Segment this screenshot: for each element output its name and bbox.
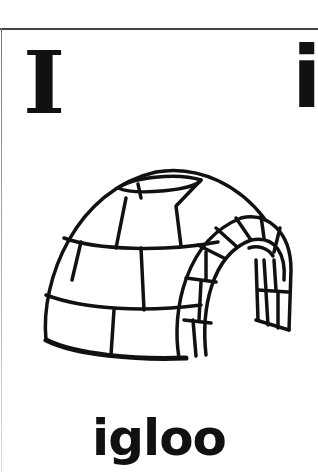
- word-label: igloo: [0, 408, 318, 468]
- uppercase-letter: I: [23, 40, 65, 126]
- card-left-border: [1, 28, 2, 472]
- lowercase-letter: i: [292, 34, 318, 120]
- igloo-icon: [36, 160, 296, 375]
- card-top-border: [0, 28, 318, 30]
